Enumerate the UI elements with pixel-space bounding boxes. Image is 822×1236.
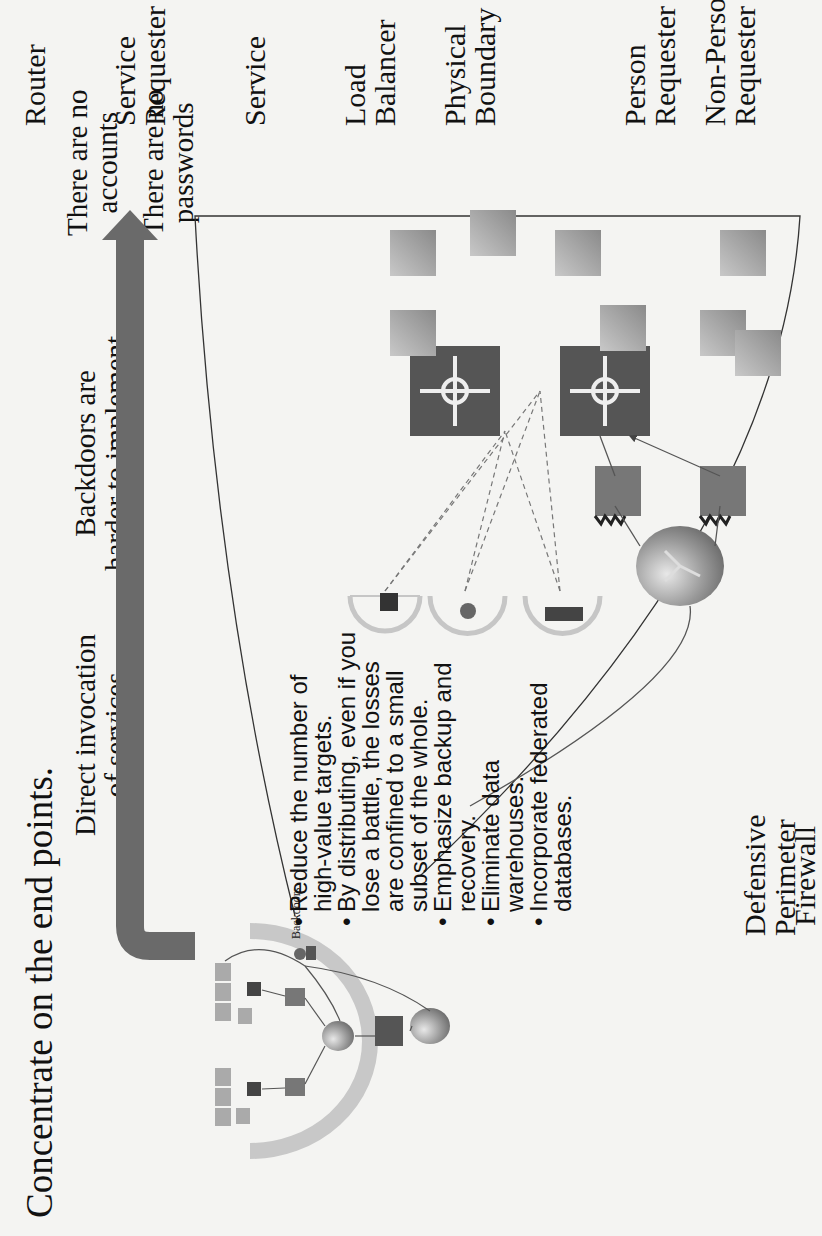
router-main — [636, 526, 724, 606]
inset-firewall-icon — [285, 1078, 305, 1096]
person-requester-icon — [460, 603, 476, 619]
inset-network: Backdoors — [215, 887, 450, 1151]
inset-backdoor-person-icon — [294, 948, 306, 960]
legend-label: Requester — [140, 6, 170, 126]
bullet-item: Eliminate data warehouses. — [479, 626, 527, 926]
inset-router2-icon — [322, 1021, 354, 1051]
inset-firewall-icon — [285, 988, 305, 1006]
bullet-item: By distributing, even if you lose a batt… — [335, 626, 431, 926]
legend-firewall: Firewall — [790, 826, 820, 926]
slide-page: Concentrate on the end points. Direct in… — [0, 0, 822, 1236]
flow-arrow — [102, 210, 195, 954]
legend-label: Service — [240, 36, 270, 126]
bullet-item: Reduce the number of high-value targets. — [287, 626, 335, 926]
legend-service: Service — [240, 36, 270, 126]
legend-label: Router — [20, 44, 50, 126]
legend-label: Requester — [730, 0, 760, 126]
legend-label: Balancer — [370, 19, 400, 126]
legend-person-requester: Person Requester — [620, 6, 680, 126]
legend-label: Firewall — [790, 826, 820, 926]
inset-load-balancer-icon — [247, 1082, 261, 1096]
legend-router: Router — [20, 44, 50, 126]
firewall-1 — [595, 466, 641, 524]
legend-label: Person — [620, 6, 650, 126]
non-person-requester-icon — [380, 593, 398, 611]
inset-load-balancer-icon — [247, 982, 261, 996]
legend-label: Non-Person — [700, 0, 730, 126]
legend-service-requester: Service Requester — [110, 6, 170, 126]
inset-gateway-icon — [375, 1016, 403, 1046]
legend-physical-boundary: Physical Boundary — [440, 8, 500, 126]
load-balancer-1 — [560, 346, 650, 436]
inset-router-icon — [410, 1008, 450, 1044]
legend-label: Boundary — [470, 8, 500, 126]
legend-label: Defensive — [740, 814, 770, 936]
legend-non-person-requester: Non-Person Requester — [700, 0, 760, 126]
legend-label: Load — [340, 19, 370, 126]
bullet-list: Reduce the number of high-value targets.… — [287, 626, 575, 926]
diagram-canvas: Backdoors — [0, 0, 822, 1236]
service-requester-icon — [545, 607, 583, 621]
legend-label: Physical — [440, 8, 470, 126]
bullet-item: Incorporate federated databases. — [527, 626, 575, 926]
firewall-2 — [700, 466, 746, 524]
bullet-item: Emphasize backup and recovery. — [431, 626, 479, 926]
load-balancer-2 — [410, 346, 500, 436]
legend-load-balancer: Load Balancer — [340, 19, 400, 126]
legend-label: Requester — [650, 6, 680, 126]
legend-label: Service — [110, 6, 140, 126]
